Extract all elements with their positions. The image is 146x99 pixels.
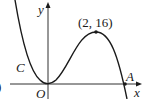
max-point	[94, 30, 98, 34]
point-a-label: A	[125, 69, 134, 84]
max-point-label: (2, 16)	[78, 15, 113, 30]
graph-canvas: y x (2, 16) A C O )	[0, 0, 146, 99]
edge-fragment: )	[0, 79, 1, 94]
curve-label: C	[16, 60, 25, 75]
origin-label: O	[36, 86, 46, 99]
y-axis-arrow-icon	[46, 2, 51, 8]
x-axis-label: x	[133, 85, 140, 99]
y-axis-label: y	[36, 2, 44, 17]
